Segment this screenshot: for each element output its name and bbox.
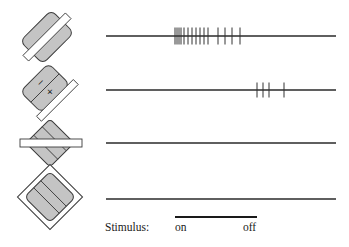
spike-trace-2	[106, 83, 336, 98]
receptive-field-icon-3	[20, 119, 82, 167]
receptive-field-icon-1	[14, 4, 79, 69]
spike-traces	[106, 28, 336, 200]
stimulus-on-label: on	[175, 222, 187, 234]
stimulus-label: Stimulus:	[105, 222, 149, 234]
receptive-field-icon-2: − +	[16, 59, 78, 121]
stimulus-off-label: off	[243, 222, 256, 234]
spike-trace-1	[106, 28, 336, 45]
light-bar-icon	[20, 139, 82, 147]
receptive-field-icon-4	[17, 164, 82, 229]
receptive-field-figure: − +	[0, 0, 349, 247]
stimulus-icons: − +	[14, 4, 82, 229]
